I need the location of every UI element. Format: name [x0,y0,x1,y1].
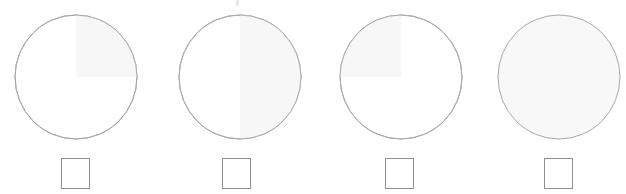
circle-shape-2[interactable] [175,14,335,142]
square-shape-2[interactable] [222,158,251,189]
circle-wrapper-2 [175,14,335,142]
circle-shape-1[interactable] [15,14,175,142]
circle-shape-3[interactable] [339,14,499,142]
circle-shape-4[interactable] [497,14,626,142]
figure-group-4 [497,0,626,194]
circle-shaded-sector-1 [76,15,137,77]
circle-wrapper-3 [339,14,499,142]
square-shape-1[interactable] [61,158,90,189]
square-shape-3[interactable] [385,158,414,189]
circle-shaded-sector-2 [240,15,301,139]
figure-group-3 [339,0,499,194]
circle-wrapper-4 [497,14,626,142]
diagram-canvas [0,0,626,194]
figure-group-2 [175,0,335,194]
circle-shaded-sector-3 [340,15,401,77]
square-shape-4[interactable] [544,158,573,189]
circle-outline-4 [498,15,620,139]
circle-wrapper-1 [15,14,175,142]
figure-group-1 [15,0,175,194]
